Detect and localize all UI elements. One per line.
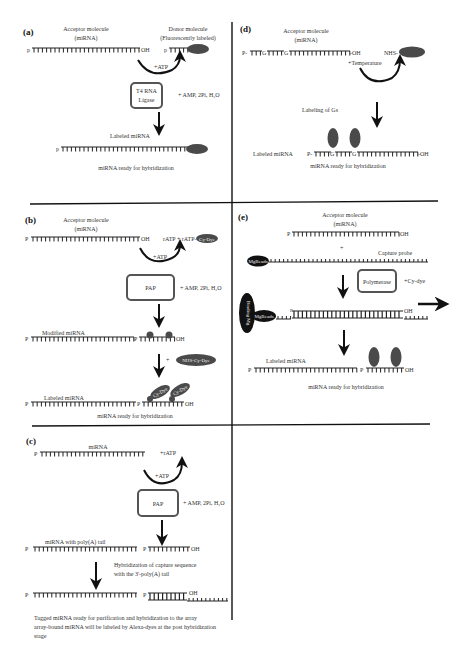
panel-e: (e) Acceptor molecule (miRNA) P OH + Cap… [238,212,442,390]
labeled-mirna-label: Labeled miRNA [44,395,84,401]
enzyme-line2: Ligase [139,97,155,103]
p-end: P [25,236,29,242]
p-end: P [248,367,252,373]
p-end: P [25,592,29,598]
oh-end: OH [405,367,414,373]
probe-segment [276,316,291,319]
hybridization-line1: Hybridization of capture sequence [114,562,197,568]
acceptor-subtitle: (miRNA) [75,35,98,42]
p-end: p [56,146,59,152]
panel-label-a: (a) [23,27,34,37]
cy-dye-label: Cy-Dye [199,237,216,242]
strand-segment [267,51,284,56]
ready-text: miRNA ready for hybridization [97,413,172,419]
enzyme-label: PAP [153,501,164,507]
labeled-strand [31,402,136,407]
hybridization-line2: with the 3'-poly(A) tail [114,571,170,578]
capture-probe-label: Capture probe [378,250,412,256]
g-base: G [262,50,267,56]
tail-p: P [137,401,141,407]
mirna-strand [33,593,137,598]
byproducts: + AMP, 2Pi, H₂O [178,92,220,98]
mirna-strand [40,452,145,457]
labeled-strand [61,147,190,152]
oh-end: OH [191,546,200,552]
strand-segment [250,51,262,56]
binding-mg-label: Binding Mg [246,301,251,326]
ratp-label: rATP + rATP- [163,236,197,242]
p-end: P [34,451,38,457]
oh-end: OH [400,231,409,237]
p-end: P- [242,50,247,56]
modified-base-marker [166,332,173,339]
acceptor-strand [292,232,399,237]
modified-strand [31,337,134,342]
enzyme-box-t4-ligase [131,83,162,108]
oh-end: OH [141,236,150,242]
enzyme-label: PAP [145,285,156,291]
plus-sign: + [340,245,344,251]
tail-strand [142,402,184,407]
p-end: P- [307,151,312,157]
oh-end: OH [404,308,413,314]
labeled-strand [254,368,357,373]
enzyme-line1: T4 RNA [136,88,158,94]
tail-strand [366,368,404,373]
divider-ab [30,201,438,204]
ready-text: miRNA ready for hybridization [98,165,173,171]
panel-b: (b) Acceptor molecule (miRNA) P OH rATP … [25,215,222,419]
g-base: G [284,50,289,56]
nhs-label: NHS- [384,50,398,56]
acceptor-title: Acceptor molecule [63,217,109,223]
strand-segment [314,152,331,157]
panel-label-c: (c) [26,436,36,446]
oh-end: -OH [418,151,429,157]
tail-p: P [360,367,364,373]
oh-end: -OH [350,50,361,56]
mirna-labeling-diagram: (a) Acceptor molecule (miRNA) Donor mole… [0,0,460,655]
panel-c: (c) miRNA P +rATP +ATP PAP + AMP, 2Pi, H… [25,436,228,639]
acceptor-title: Acceptor molecule [283,28,329,34]
strand-segment [357,152,418,157]
capture-sequence [187,598,228,601]
note-line3: stage [34,633,47,639]
oh-end: OH [141,47,150,53]
polya-label: miRNA with poly(A) tail [45,539,106,546]
atp-label: +ATP [155,473,170,479]
p-end: P [287,231,291,237]
labeled-mirna-label: Labeled miRNA [110,133,150,139]
strand-segment [335,152,352,157]
probe-segment [404,316,428,319]
acceptor-subtitle: (miRNA) [75,226,98,233]
atp-label: +ATP [154,64,169,70]
panel-label-e: (e) [238,212,248,222]
polya-tail [148,547,190,552]
acceptor-strand [31,237,140,242]
p-end: P [25,401,29,407]
enzyme-label: Polymerase [363,279,391,285]
dye-oval [328,128,339,148]
cy-dye-label: +Cy-dye [404,278,425,284]
hybridized-tail [148,593,187,600]
note-line1: Tagged miRNA ready for purification and … [34,615,197,621]
capture-probe-strand [269,259,428,262]
dye-oval [350,128,361,148]
oh-end: OH [189,590,198,596]
donor-subtitle: (Fluorescently labeled) [160,35,215,42]
byproducts: + AMP, 2Pi, H₂O [183,500,225,506]
divider-bc [32,424,430,426]
byproducts: + AMP, 2Pi, H₂O [180,285,222,291]
ratp-label: +rATP [160,450,177,456]
labeled-mirna-label: Labeled miRNA [253,151,293,157]
acceptor-title: Acceptor molecule [63,26,109,32]
donor-strand [169,48,190,53]
ready-text: miRNA ready for hybridization [310,163,385,169]
fluorophore-oval [187,44,209,54]
oh-end: OH [176,336,185,342]
fluorophore-oval [186,144,208,154]
p-end: P [25,336,29,342]
p-end: P [25,546,29,552]
temperature-label: +Temperature [348,60,382,66]
modified-mirna-label: Modified miRNA [42,330,85,336]
dye-oval [369,347,380,367]
